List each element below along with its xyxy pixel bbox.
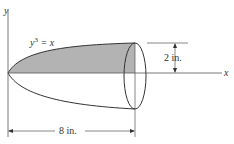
radius-dimension: 2 in.: [164, 52, 182, 63]
curve-equation: y3 = x: [29, 36, 55, 48]
y-axis-label: y: [3, 5, 9, 16]
x-axis-label: x: [223, 67, 229, 78]
paraboloid-diagram: y x y3 = x 2 in. 8 in.: [0, 0, 234, 144]
length-dimension: 8 in.: [59, 125, 77, 136]
lower-curve: [8, 73, 135, 109]
